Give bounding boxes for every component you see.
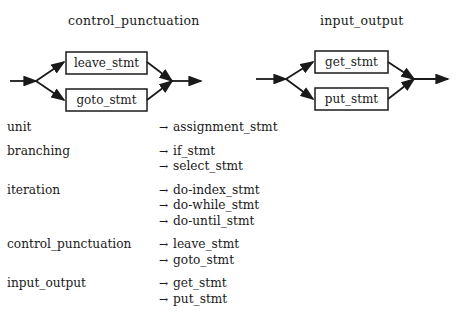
rule-unit: unit →assignment_stmt (7, 120, 278, 136)
rule-alternative: leave_stmt (173, 237, 239, 251)
rule-alternative: if_stmt (173, 144, 215, 158)
rule-iteration: iteration →do-index_stmt →do-while_stmt … (7, 183, 278, 230)
rule-control-punctuation: control_punctuation →leave_stmt →goto_st… (7, 237, 278, 268)
arrow-icon: → (159, 144, 173, 160)
rule-lhs: iteration (7, 183, 159, 230)
branch-get-stmt: get_stmt (325, 55, 378, 69)
branch-leave-stmt: leave_stmt (74, 56, 139, 70)
rule-lhs: control_punctuation (7, 237, 159, 268)
rule-alternative: do-while_stmt (173, 198, 259, 212)
rule-alternative: select_stmt (173, 159, 243, 173)
grammar-rules: unit →assignment_stmt branching →if_stmt… (7, 120, 278, 315)
arrow-icon: → (159, 198, 173, 214)
rule-input-output: input_output →get_stmt →put_stmt (7, 276, 278, 307)
arrow-icon: → (159, 237, 173, 253)
rule-alternative: put_stmt (173, 292, 227, 306)
rule-branching: branching →if_stmt →select_stmt (7, 144, 278, 175)
arrow-icon: → (159, 253, 173, 269)
rule-alternative: do-index_stmt (173, 183, 260, 197)
branch-put-stmt: put_stmt (325, 92, 379, 106)
rule-alternative: goto_stmt (173, 253, 234, 267)
syntax-diagrams: leave_stmt goto_stmt get_stmt put_stmt (0, 0, 459, 115)
rule-lhs: branching (7, 144, 159, 175)
rule-alternative: do-until_stmt (173, 214, 254, 228)
arrow-icon: → (159, 214, 173, 230)
arrow-icon: → (159, 292, 173, 308)
rule-lhs: unit (7, 120, 159, 136)
arrow-icon: → (159, 159, 173, 175)
arrow-icon: → (159, 120, 173, 136)
branch-goto-stmt: goto_stmt (76, 93, 136, 107)
rule-alternative: get_stmt (173, 276, 227, 290)
rule-alternative: assignment_stmt (173, 120, 278, 134)
arrow-icon: → (159, 183, 173, 199)
arrow-icon: → (159, 276, 173, 292)
rule-lhs: input_output (7, 276, 159, 307)
